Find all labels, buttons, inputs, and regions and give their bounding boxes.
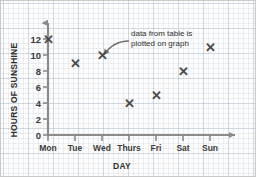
y-tick-label-0: 0 (25, 130, 41, 141)
x-axis-title: DAY (113, 161, 131, 171)
data-point-thurs: ✕ (124, 97, 135, 110)
y-tick-label-10: 10 (25, 50, 41, 61)
annotation-text-line-1: data from table is (131, 29, 192, 39)
chart-figure: 0 2 4 6 8 10 12 Mon Tue Wed Thurs Fri Sa… (0, 0, 256, 177)
annotation-arrow-icon (104, 41, 129, 55)
y-axis-title: HOURS OF SUNSHINE (9, 40, 19, 140)
annotation-text-line-2: plotted on graph (131, 39, 189, 49)
data-point-fri: ✕ (151, 89, 162, 102)
y-tick-label-4: 4 (25, 98, 41, 109)
data-point-tue: ✕ (70, 57, 81, 70)
data-point-mon: ✕ (43, 33, 54, 46)
y-tick-label-6: 6 (25, 82, 41, 93)
data-point-sat: ✕ (178, 65, 189, 78)
x-tick-label-sun: Sun (193, 143, 227, 153)
y-tick-label-2: 2 (25, 114, 41, 125)
data-point-sun: ✕ (205, 41, 216, 54)
data-point-wed: ✕ (97, 49, 108, 62)
y-tick-label-12: 12 (25, 34, 41, 45)
y-tick-label-8: 8 (25, 66, 41, 77)
